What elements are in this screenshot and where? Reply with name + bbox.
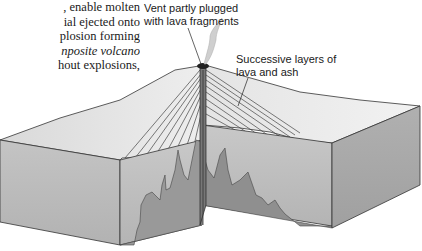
cross-section-face-right: [202, 125, 332, 228]
vent-plug: [197, 63, 209, 69]
label-successive-layers: Successive layers of lava and ash: [236, 53, 336, 78]
composite-volcano-diagram: [0, 0, 422, 251]
label-vent-plugged: Vent partly plugged with lava fragments: [144, 2, 239, 27]
central-vent-conduit: [200, 68, 206, 225]
